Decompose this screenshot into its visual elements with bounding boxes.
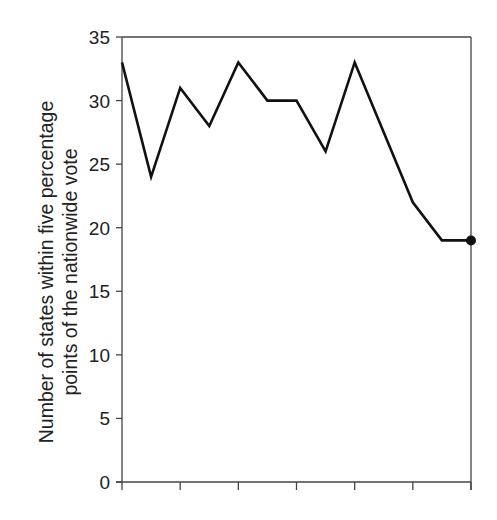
x-axis-ticks <box>122 482 471 490</box>
y-tick-label: 25 <box>89 154 110 175</box>
y-tick-label: 5 <box>99 408 110 429</box>
y-axis-ticks: 05101520253035 <box>89 27 122 493</box>
line-chart: 05101520253035 <box>0 0 497 520</box>
plot-frame <box>116 37 471 490</box>
y-tick-label: 15 <box>89 281 110 302</box>
y-tick-label: 20 <box>89 218 110 239</box>
y-tick-label: 35 <box>89 27 110 48</box>
last-point-marker <box>466 235 476 245</box>
y-tick-label: 30 <box>89 91 110 112</box>
y-tick-label: 10 <box>89 345 110 366</box>
y-tick-label: 0 <box>99 472 110 493</box>
data-line <box>122 62 471 240</box>
